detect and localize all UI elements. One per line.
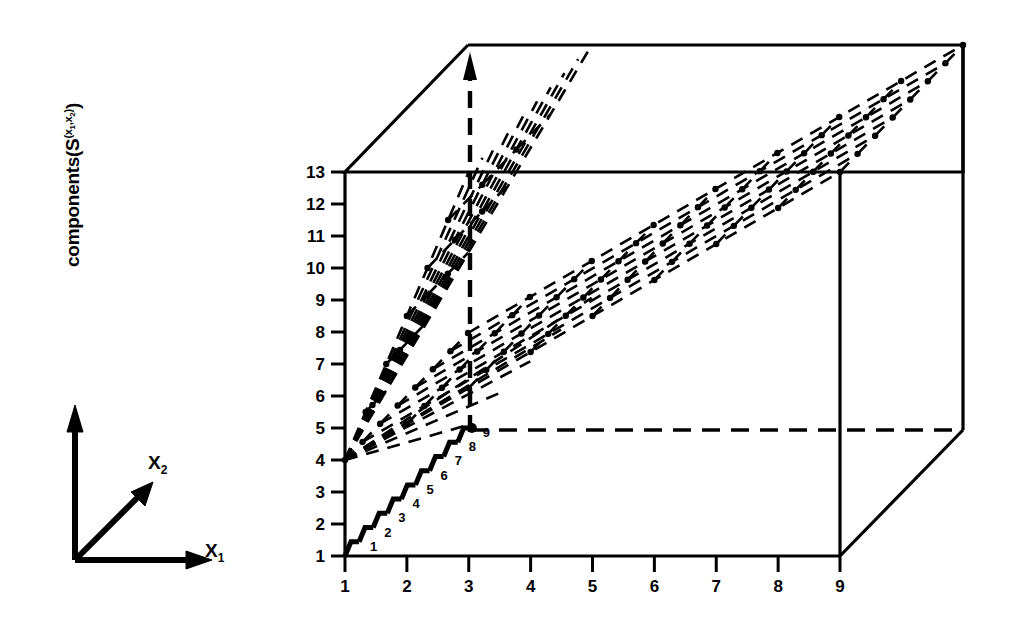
- svg-text:9: 9: [316, 291, 325, 310]
- svg-text:12: 12: [306, 195, 325, 214]
- svg-text:3: 3: [316, 483, 325, 502]
- svg-text:1: 1: [340, 577, 349, 596]
- svg-text:6: 6: [441, 468, 448, 483]
- svg-text:4: 4: [526, 577, 536, 596]
- x-axis-ticks: [345, 556, 840, 572]
- svg-text:8: 8: [773, 577, 782, 596]
- svg-text:2: 2: [402, 577, 411, 596]
- svg-text:3: 3: [464, 577, 473, 596]
- svg-text:4: 4: [412, 496, 420, 511]
- y-axis-title-wrapper: components(S(x1,x2)): [58, 60, 88, 310]
- axis-key-label-x1: X1: [205, 540, 224, 565]
- y-axis-title: components(S(x1,x2)): [62, 103, 84, 267]
- svg-text:8: 8: [469, 439, 476, 454]
- staircase-labels: 123456789: [370, 425, 490, 554]
- staircase-end-dot: [467, 423, 477, 433]
- figure-canvas: 12345678910111213 123456789 123456789 co…: [0, 0, 1015, 618]
- plot-svg: 12345678910111213 123456789 123456789: [0, 0, 1015, 618]
- y-axis-ticks: [331, 172, 345, 556]
- svg-text:6: 6: [650, 577, 659, 596]
- svg-text:1: 1: [316, 547, 325, 566]
- svg-text:13: 13: [306, 163, 325, 182]
- axes-key-arrows: [67, 405, 212, 569]
- x-axis-tick-labels: 123456789: [340, 577, 844, 596]
- svg-text:1: 1: [370, 539, 377, 554]
- svg-text:7: 7: [712, 577, 721, 596]
- svg-text:5: 5: [426, 482, 433, 497]
- svg-text:2: 2: [384, 525, 391, 540]
- svg-text:2: 2: [316, 515, 325, 534]
- svg-text:7: 7: [455, 453, 462, 468]
- svg-text:11: 11: [307, 227, 325, 246]
- y-axis-tick-labels: 12345678910111213: [306, 163, 325, 566]
- svg-text:9: 9: [483, 425, 490, 440]
- axis-key-label-x2: X2: [148, 452, 167, 477]
- svg-text:5: 5: [316, 419, 325, 438]
- svg-text:8: 8: [316, 323, 325, 342]
- svg-text:5: 5: [588, 577, 597, 596]
- svg-text:7: 7: [316, 355, 325, 374]
- svg-text:9: 9: [835, 577, 844, 596]
- svg-text:4: 4: [316, 451, 326, 470]
- svg-text:3: 3: [398, 510, 405, 525]
- svg-text:10: 10: [306, 259, 325, 278]
- svg-text:6: 6: [316, 387, 325, 406]
